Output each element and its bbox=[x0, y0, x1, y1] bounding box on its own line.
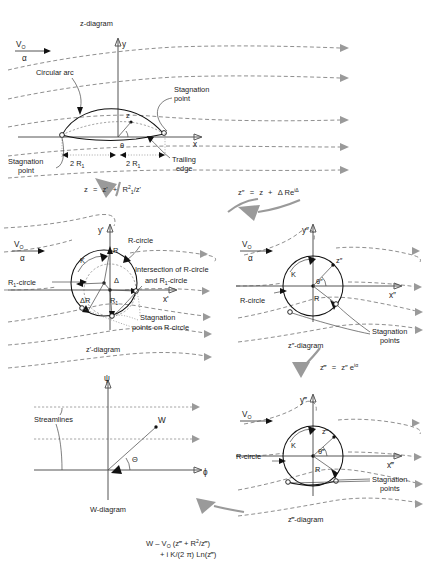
z-stagnation-left-label2: point bbox=[18, 166, 34, 175]
zprime-deltaR-label: ΔR bbox=[80, 296, 90, 305]
ztripleprime-theta-label: θ‴ bbox=[318, 447, 325, 456]
trailing-edge-label2: edge bbox=[176, 164, 192, 173]
zprime-intersection-label-1: Intersection of R-circle bbox=[135, 265, 209, 274]
w-point-label: W bbox=[158, 416, 166, 425]
z-radius-line bbox=[118, 122, 131, 137]
ztripleprime-z-label: z‴ bbox=[322, 427, 329, 436]
equation-2: z″ = z + Δ ReiΔ bbox=[238, 187, 299, 197]
transform-arrow-to-w-diagram bbox=[196, 498, 244, 514]
svg-text:α: α bbox=[20, 254, 25, 263]
camber-line bbox=[62, 122, 164, 135]
svg-text:VO: VO bbox=[242, 240, 252, 250]
zdoubleprime-stagnation-marker-1 bbox=[334, 302, 339, 307]
z-stagnation-right-label: Stagnation bbox=[174, 85, 209, 94]
zdoubleprime-z-point bbox=[331, 263, 334, 266]
w-streamlines-leader-2 bbox=[56, 424, 62, 470]
zprime-axis-y-label: y' bbox=[98, 226, 104, 235]
zprime-stagnation-label-2: points on R-circle bbox=[132, 323, 189, 332]
zprime-intersection-label-2: and R1-circle bbox=[145, 276, 187, 286]
svg-text:VO: VO bbox=[16, 40, 26, 50]
z-stagnation-right-label2: point bbox=[174, 94, 190, 103]
complex-potential-line-1: W – VO (z‴ + R2/z‴) bbox=[146, 538, 210, 549]
stagnation-point-right-marker bbox=[162, 131, 167, 136]
z-stagnation-left-label: Stagnation bbox=[8, 157, 43, 166]
zdoubleprime-axis-x-label: x″ bbox=[389, 291, 396, 300]
w-streamlines-label: Streamlines bbox=[34, 415, 73, 424]
stagnation-point-left-marker bbox=[60, 133, 65, 138]
zprime-delta-label: Δ bbox=[114, 276, 119, 285]
zdoubleprime-R-label: R bbox=[314, 294, 319, 303]
w-axis-x-label: ϕ bbox=[203, 468, 208, 477]
zprime-R1-circle-label: R1-circle bbox=[8, 278, 36, 288]
ztripleprime-diagram-caption: z‴-diagram bbox=[288, 515, 323, 524]
complex-potential-formula: W – VO (z‴ + R2/z‴) + i K/(2 π) Ln(z‴) bbox=[146, 538, 217, 559]
zdoubleprime-circulation-label: K bbox=[291, 270, 296, 279]
zdoubleprime-theta-label: θ″ bbox=[316, 277, 323, 286]
zprime-axis-x-label: x' bbox=[163, 295, 169, 304]
ztripleprime-circulation-label: K bbox=[291, 441, 296, 450]
zdoubleprime-diagram-caption: z″-diagram bbox=[288, 341, 323, 350]
zdoubleprime-stagnation-label-1: Stagnation bbox=[372, 327, 407, 336]
ztripleprime-R-label: R bbox=[315, 465, 320, 474]
zdoubleprime-freestream-marker: VO α bbox=[240, 240, 273, 263]
figure-canvas: y x z θ 2 R1 2 R1 VO α bbox=[0, 0, 432, 580]
w-axis-y-label: ψ bbox=[104, 374, 110, 383]
chord-right-label: 2 R1 bbox=[126, 159, 141, 169]
zdoubleprime-stagnation-leader-1 bbox=[338, 306, 370, 332]
zprime-intersection-marker bbox=[110, 314, 115, 319]
ztripleprime-axis-x-label: x‴ bbox=[387, 461, 394, 470]
w-streamlines-leader-1 bbox=[60, 408, 62, 415]
ztripleprime-freestream-marker: VO bbox=[240, 410, 273, 424]
trailing-edge-label: Trailing bbox=[172, 155, 196, 164]
ztripleprime-stagnation-label-1: Stagnation bbox=[372, 475, 407, 484]
zprime-radius-R1-label: R1 bbox=[110, 296, 118, 306]
w-diagram-caption: W-diagram bbox=[90, 505, 126, 514]
zprime-circulation-label: K bbox=[80, 256, 85, 265]
zprime-freestream-marker: VO α bbox=[12, 240, 45, 263]
equation-1: z = z' + R21/z' bbox=[84, 184, 142, 195]
zprime-stag-radius-2 bbox=[88, 283, 104, 311]
ztripleprime-stagnation-marker-2 bbox=[286, 480, 291, 485]
theta-arc bbox=[126, 131, 128, 137]
complex-potential-line-2: + i K/(2 π) Ln(z‴) bbox=[160, 550, 217, 559]
z-point-label: z bbox=[126, 111, 130, 120]
z-axis-x-label: x bbox=[193, 140, 197, 149]
z-freestream-marker: VO α bbox=[15, 40, 51, 63]
z-stagnation-right-leader bbox=[157, 98, 172, 131]
ztripleprime-stagnation-leader-1 bbox=[338, 479, 370, 480]
z-stagnation-left-leader bbox=[56, 138, 64, 168]
svg-text:VO: VO bbox=[242, 410, 252, 420]
ztripleprime-diagram-group: y‴ x‴ z‴ θ‴ R K R-circle Stagnation poin… bbox=[236, 394, 423, 524]
svg-text:α: α bbox=[22, 54, 27, 63]
zdoubleprime-z-label: z″ bbox=[336, 256, 343, 265]
z-diagram-group: y x z θ 2 R1 2 R1 VO α bbox=[8, 19, 349, 178]
ztripleprime-stagnation-label-2: points bbox=[380, 484, 400, 493]
w-theta-label: Θ bbox=[132, 455, 138, 464]
ztripleprime-stagnation-marker-1 bbox=[334, 479, 339, 484]
svg-text:VO: VO bbox=[14, 240, 24, 250]
zprime-stagnation-label-1: Stagnation bbox=[140, 313, 175, 322]
zprime-stagnation-leader-1 bbox=[114, 315, 138, 320]
zdoubleprime-R-circle-label: R-circle bbox=[240, 296, 265, 305]
z-theta-label: θ bbox=[120, 141, 124, 150]
w-point-marker bbox=[154, 425, 157, 428]
zprime-delta-line bbox=[104, 283, 110, 290]
circular-arc-label: Circular arc bbox=[36, 68, 74, 77]
zprime-diagram-caption: z'-diagram bbox=[86, 345, 120, 354]
zprime-diagram-group: y' x' K R Δ ΔR R1 R-circle bbox=[4, 214, 216, 368]
w-diagram-group: ψ ϕ W Θ Streamlines W-diagram bbox=[34, 374, 208, 514]
transform-arrow-zdoubleprime-to-ztripleprime bbox=[292, 348, 320, 378]
zdoubleprime-diagram-group: y″ x″ z″ θ″ R K R-circle Stagnation poin… bbox=[236, 224, 423, 350]
circular-arc-leader bbox=[72, 78, 81, 110]
zdoubleprime-stagnation-label-2: points bbox=[380, 336, 400, 345]
zdoubleprime-axis-y-label: y″ bbox=[302, 226, 309, 235]
w-theta-arc bbox=[126, 458, 130, 470]
zdoubleprime-stagnation-marker-2 bbox=[288, 310, 293, 315]
zprime-stagnation-marker-2 bbox=[80, 306, 85, 311]
z-axis-y-label: y bbox=[122, 40, 127, 49]
ztripleprime-axis-y-label: y‴ bbox=[300, 396, 307, 405]
zprime-R-circle-label: R-circle bbox=[128, 236, 153, 245]
ztripleprime-R-circle-label: R-circle bbox=[236, 452, 261, 461]
chord-left-label: 2 R1 bbox=[70, 159, 85, 169]
equation-3: z‴ = z″ eiα bbox=[320, 362, 358, 372]
